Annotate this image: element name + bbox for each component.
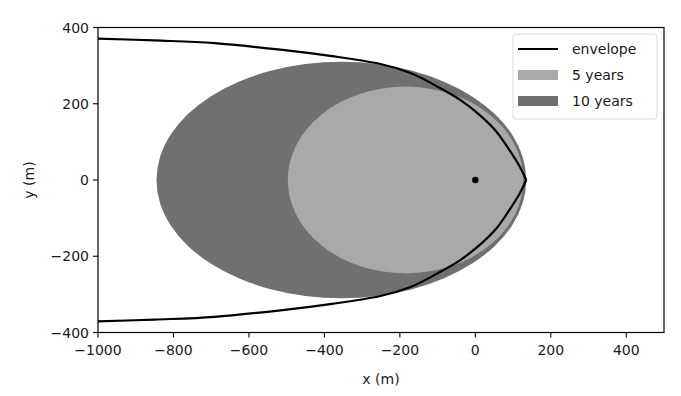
y-tick-label: 0 bbox=[80, 172, 89, 188]
chart: −1000−800−600−400−2000200400 −400−200020… bbox=[0, 0, 681, 396]
origin-point-marker bbox=[472, 177, 478, 183]
x-tick-label: −600 bbox=[230, 342, 268, 358]
legend-swatch-5-years bbox=[518, 70, 558, 80]
legend-label-5-years: 5 years bbox=[572, 67, 624, 83]
plot-area bbox=[98, 39, 526, 322]
x-axis-label: x (m) bbox=[362, 371, 399, 387]
x-tick-label: −800 bbox=[154, 342, 192, 358]
y-axis: −400−2000200400 bbox=[51, 20, 98, 341]
legend: envelope 5 years 10 years bbox=[513, 34, 657, 119]
y-tick-label: −200 bbox=[51, 248, 89, 264]
five-years-region bbox=[288, 87, 523, 274]
x-tick-label: −400 bbox=[305, 342, 343, 358]
y-tick-label: −400 bbox=[51, 325, 89, 341]
legend-label-envelope: envelope bbox=[572, 41, 636, 57]
x-tick-label: 0 bbox=[471, 342, 480, 358]
x-axis: −1000−800−600−400−2000200400 bbox=[74, 333, 639, 358]
x-tick-label: 200 bbox=[537, 342, 564, 358]
y-tick-label: 200 bbox=[62, 96, 89, 112]
legend-swatch-10-years bbox=[518, 96, 558, 106]
y-tick-label: 400 bbox=[62, 20, 89, 36]
y-axis-label: y (m) bbox=[21, 161, 37, 198]
x-tick-label: −200 bbox=[381, 342, 419, 358]
legend-label-10-years: 10 years bbox=[572, 93, 633, 109]
x-tick-label: −1000 bbox=[74, 342, 121, 358]
x-tick-label: 400 bbox=[613, 342, 640, 358]
